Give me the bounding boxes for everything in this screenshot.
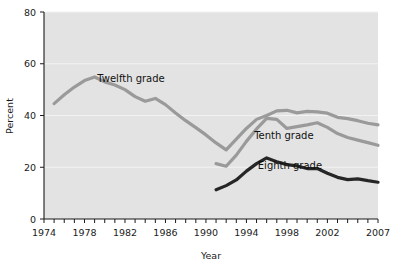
x-tick-label-1978: 1978: [72, 227, 96, 238]
x-tick-label-1974: 1974: [32, 227, 56, 238]
x-tick-label-2002: 2002: [315, 227, 339, 238]
y-tick-label-80: 80: [24, 7, 36, 18]
y-tick-label-0: 0: [30, 214, 36, 225]
y-tick-label-60: 60: [24, 58, 36, 69]
x-tick-label-1994: 1994: [234, 227, 258, 238]
series-label-tenth-grade: Tenth grade: [253, 130, 313, 141]
y-tick-label-40: 40: [24, 110, 36, 121]
x-tick-label-2007: 2007: [366, 227, 390, 238]
x-tick-label-1982: 1982: [113, 227, 137, 238]
x-axis-tick-labels: 197419781982198619901994199820022007: [32, 227, 390, 238]
y-axis-tick-marks: [40, 12, 44, 219]
x-tick-label-1998: 1998: [275, 227, 299, 238]
y-tick-label-20: 20: [24, 162, 36, 173]
series-label-eighth-grade: Eighth grade: [258, 160, 322, 171]
x-tick-label-1990: 1990: [194, 227, 218, 238]
x-axis-tick-marks: [44, 219, 378, 223]
chart-container: 020406080 197419781982198619901994199820…: [0, 0, 395, 264]
y-axis-tick-labels: 020406080: [24, 7, 36, 225]
x-tick-label-1986: 1986: [153, 227, 177, 238]
x-axis-title: Year: [200, 250, 221, 261]
series-label-twelfth-grade: Twelfth grade: [96, 73, 164, 84]
y-axis-title: Percent: [4, 98, 15, 134]
line-chart: 020406080 197419781982198619901994199820…: [0, 0, 395, 264]
